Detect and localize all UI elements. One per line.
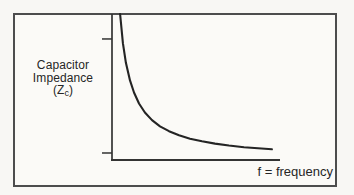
y-axis-ticks [102, 39, 112, 153]
impedance-curve [120, 14, 272, 149]
y-axis-label-line3: (Zc) [24, 84, 102, 100]
x-axis-label: f = frequency [249, 164, 333, 179]
y-axis-label-line1: Capacitor [24, 59, 102, 72]
y-axis-label: Capacitor Impedance (Zc) [24, 59, 102, 100]
figure-capacitor-impedance: Capacitor Impedance (Zc) f = frequency [0, 0, 354, 195]
zc-close: ) [69, 83, 73, 97]
zc-open: (Z [53, 83, 65, 97]
